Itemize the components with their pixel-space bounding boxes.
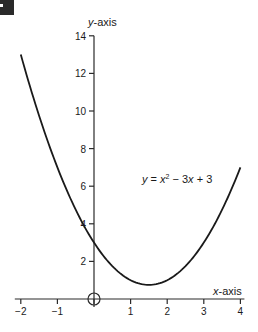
x-tick-label: 2 xyxy=(164,306,170,317)
y-tick-label: 6 xyxy=(80,181,86,192)
chart-plot-area: −2−11234 2468101214 y-axis x-axis y = x2… xyxy=(0,0,258,332)
y-axis-ticks: 2468101214 xyxy=(75,31,94,268)
x-axis-ticks: −2−11234 xyxy=(15,299,244,317)
y-tick-label: 2 xyxy=(80,256,86,267)
x-axis-label: x-axis xyxy=(212,285,242,297)
x-tick-label: 1 xyxy=(128,306,134,317)
eq-equals: = xyxy=(148,173,161,185)
x-tick-label: −2 xyxy=(15,306,27,317)
y-axis-label: y-axis xyxy=(87,16,117,28)
y-axis-label-rest: -axis xyxy=(94,16,118,28)
x-tick-label: 4 xyxy=(238,306,244,317)
equation-annotation: y = x2 − 3x + 3 xyxy=(141,173,212,185)
x-tick-label: 3 xyxy=(201,306,207,317)
y-tick-label: 12 xyxy=(75,68,87,79)
parabola-curve xyxy=(21,55,241,285)
y-tick-label: 14 xyxy=(75,31,87,42)
eq-plus-3: + 3 xyxy=(194,173,213,185)
x-tick-label: −1 xyxy=(52,306,64,317)
x-axis-label-rest: -axis xyxy=(219,285,243,297)
y-tick-label: 10 xyxy=(75,106,87,117)
eq-minus-3: − 3 xyxy=(169,173,188,185)
y-tick-label: 8 xyxy=(80,144,86,155)
